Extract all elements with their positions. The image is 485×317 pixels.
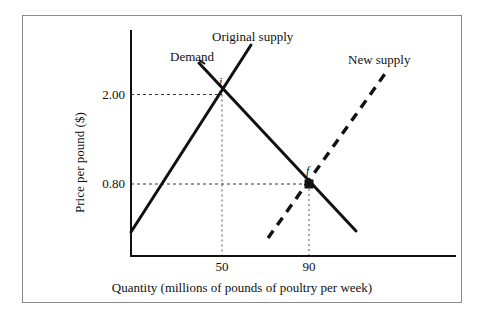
x-tick-label-50: 50	[204, 259, 240, 275]
point-label-i: i	[219, 75, 222, 90]
curve-label-demand: Demand	[170, 49, 214, 65]
y-tick-label-200: 2.00	[87, 87, 125, 103]
x-axis-title: Quantity (millions of pounds of poultry …	[22, 280, 462, 296]
supply-demand-figure: Price per pound ($) 2.00 0.80 50 90 Quan…	[0, 0, 485, 317]
curve-label-original-supply: Original supply	[212, 29, 293, 45]
y-axis-title: Price per pound ($)	[72, 112, 88, 213]
curve-original-supply	[131, 45, 251, 232]
x-tick-label-90: 90	[291, 259, 327, 275]
y-tick-label-080: 0.80	[87, 176, 125, 192]
curve-demand	[199, 63, 356, 231]
point-label-f: f	[306, 164, 309, 179]
curve-label-new-supply: New supply	[348, 52, 410, 68]
marker-point-f	[305, 180, 314, 189]
